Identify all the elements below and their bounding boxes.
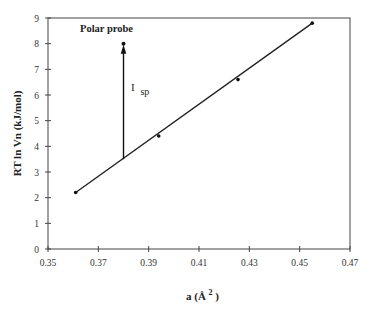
plot-frame <box>48 18 350 249</box>
chart: 0.350.370.390.410.430.450.47 0123456789 … <box>0 0 374 320</box>
y-tick-label: 5 <box>34 116 39 126</box>
x-tick-label: 0.43 <box>241 258 258 268</box>
x-tick-label: 0.47 <box>342 258 359 268</box>
arrow-head-icon <box>121 45 127 54</box>
x-tick-label: 0.41 <box>191 258 208 268</box>
fit-line <box>76 23 313 192</box>
isp-label-main: I <box>131 81 135 93</box>
x-axis-title-sup: 2 <box>209 288 213 297</box>
data-point <box>157 134 161 138</box>
x-axis-title: a (Å 2 ) <box>186 285 219 303</box>
data-point <box>236 78 240 82</box>
y-tick-label: 1 <box>34 219 39 229</box>
y-tick-label: 0 <box>34 245 39 255</box>
y-tick-label: 6 <box>34 91 39 101</box>
data-series <box>74 21 314 194</box>
y-tick-label: 8 <box>34 39 39 49</box>
x-axis-title-close: ) <box>215 290 219 303</box>
polar-probe-label: Polar probe <box>80 23 133 34</box>
y-tick-label: 4 <box>34 142 39 152</box>
x-tick-label: 0.37 <box>90 258 107 268</box>
isp-label: I sp <box>131 81 149 97</box>
data-point <box>310 21 314 25</box>
data-point <box>74 191 78 195</box>
y-tick-label: 7 <box>34 65 39 75</box>
x-tick-label: 0.35 <box>40 258 57 268</box>
y-tick-label: 2 <box>34 193 39 203</box>
x-tick-label: 0.39 <box>140 258 157 268</box>
y-tick-label: 3 <box>34 168 39 178</box>
isp-label-sub: sp <box>140 86 149 97</box>
y-axis-title: RT ln Vn (kJ/mol) <box>11 90 24 176</box>
x-tick-label: 0.45 <box>291 258 308 268</box>
isp-arrow <box>121 45 127 160</box>
y-tick-label: 9 <box>34 14 39 24</box>
x-axis-title-main: a (Å <box>186 290 206 303</box>
plot-axes <box>48 18 350 249</box>
